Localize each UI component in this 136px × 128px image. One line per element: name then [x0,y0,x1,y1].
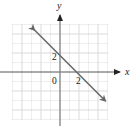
function-line [34,30,105,101]
origin-label: 0 [52,76,57,86]
x-axis-label: x [124,66,130,77]
y-tick-label-2: 2 [52,52,57,62]
x-tick-label-2: 2 [76,76,81,86]
y-axis-label: y [56,0,62,11]
coordinate-plane: y x 2 0 2 [0,0,136,128]
